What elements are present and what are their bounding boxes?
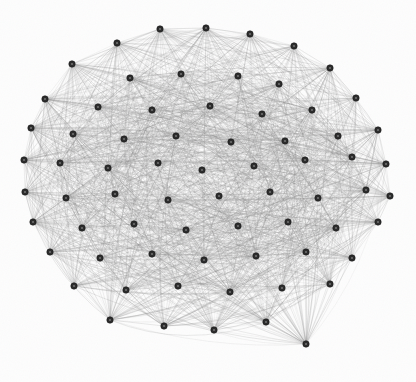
graph-node[interactable]: [383, 161, 389, 167]
graph-node-core: [97, 106, 99, 108]
graph-node[interactable]: [375, 219, 381, 225]
graph-node-core: [337, 135, 339, 137]
graph-node-core: [133, 223, 135, 225]
graph-node-core: [44, 98, 46, 100]
graph-node[interactable]: [267, 189, 273, 195]
graph-node[interactable]: [22, 189, 28, 195]
graph-node[interactable]: [315, 195, 321, 201]
graph-node-core: [177, 285, 179, 287]
graph-node[interactable]: [79, 225, 85, 231]
graph-node[interactable]: [253, 253, 259, 259]
graph-node-core: [305, 251, 307, 253]
graph-node-core: [304, 159, 306, 161]
graph-node[interactable]: [70, 131, 76, 137]
graph-node-core: [180, 73, 182, 75]
graph-node[interactable]: [216, 193, 222, 199]
graph-node[interactable]: [349, 154, 355, 160]
graph-node[interactable]: [282, 138, 288, 144]
graph-canvas: [0, 0, 416, 382]
graph-node[interactable]: [251, 163, 257, 169]
graph-node-core: [109, 319, 111, 321]
graph-node[interactable]: [114, 40, 120, 46]
graph-node[interactable]: [235, 223, 241, 229]
graph-node-core: [107, 167, 109, 169]
graph-node[interactable]: [131, 221, 137, 227]
graph-node[interactable]: [333, 225, 339, 231]
graph-node[interactable]: [276, 81, 282, 87]
graph-node-core: [261, 113, 263, 115]
graph-node-core: [175, 135, 177, 137]
graph-node[interactable]: [327, 65, 333, 71]
graph-node[interactable]: [178, 71, 184, 77]
graph-node-core: [377, 129, 379, 131]
graph-node-core: [237, 75, 239, 77]
graph-node[interactable]: [149, 251, 155, 257]
graph-node[interactable]: [247, 31, 253, 37]
graph-node[interactable]: [303, 249, 309, 255]
graph-node-core: [99, 257, 101, 259]
graph-node-core: [311, 109, 313, 111]
graph-node-core: [305, 343, 307, 345]
graph-node[interactable]: [335, 133, 341, 139]
graph-node[interactable]: [285, 219, 291, 225]
graph-node[interactable]: [161, 323, 167, 329]
graph-node-core: [287, 221, 289, 223]
graph-node[interactable]: [235, 73, 241, 79]
graph-node-core: [114, 193, 116, 195]
graph-node[interactable]: [387, 193, 393, 199]
graph-node[interactable]: [107, 317, 113, 323]
graph-node[interactable]: [165, 197, 171, 203]
graph-node[interactable]: [57, 160, 63, 166]
graph-node-core: [269, 191, 271, 193]
graph-node-core: [253, 165, 255, 167]
graph-node-core: [255, 255, 257, 257]
graph-node[interactable]: [259, 111, 265, 117]
graph-node-core: [163, 325, 165, 327]
graph-node[interactable]: [183, 227, 189, 233]
graph-node[interactable]: [71, 283, 77, 289]
graph-node[interactable]: [199, 167, 205, 173]
graph-node[interactable]: [203, 25, 209, 31]
graph-node[interactable]: [302, 157, 308, 163]
graph-node[interactable]: [279, 285, 285, 291]
graph-node[interactable]: [173, 133, 179, 139]
graph-node[interactable]: [155, 160, 161, 166]
graph-node[interactable]: [363, 187, 369, 193]
graph-node[interactable]: [97, 255, 103, 261]
graph-node[interactable]: [349, 255, 355, 261]
graph-node[interactable]: [30, 219, 36, 225]
graph-node[interactable]: [149, 107, 155, 113]
graph-node[interactable]: [228, 139, 234, 145]
graph-node[interactable]: [28, 125, 34, 131]
graph-node[interactable]: [69, 61, 75, 67]
graph-node[interactable]: [227, 289, 233, 295]
graph-node[interactable]: [309, 107, 315, 113]
graph-node[interactable]: [291, 43, 297, 49]
graph-node[interactable]: [375, 127, 381, 133]
graph-node-core: [284, 140, 286, 142]
graph-node[interactable]: [112, 191, 118, 197]
graph-node[interactable]: [121, 136, 127, 142]
graph-node[interactable]: [263, 319, 269, 325]
graph-node-core: [351, 156, 353, 158]
graph-node[interactable]: [21, 157, 27, 163]
graph-node[interactable]: [157, 26, 163, 32]
graph-node[interactable]: [175, 283, 181, 289]
graph-node[interactable]: [127, 75, 133, 81]
graph-node-core: [59, 162, 61, 164]
graph-node[interactable]: [47, 249, 53, 255]
graph-node-core: [167, 199, 169, 201]
graph-node[interactable]: [201, 257, 207, 263]
graph-node[interactable]: [353, 95, 359, 101]
graph-node[interactable]: [303, 341, 309, 347]
graph-node[interactable]: [327, 281, 333, 287]
graph-node[interactable]: [63, 195, 69, 201]
graph-node[interactable]: [123, 287, 129, 293]
graph-node-core: [159, 28, 161, 30]
graph-node[interactable]: [211, 327, 217, 333]
graph-node[interactable]: [42, 96, 48, 102]
graph-node[interactable]: [95, 104, 101, 110]
graph-node[interactable]: [207, 103, 213, 109]
graph-node-core: [293, 45, 295, 47]
graph-node[interactable]: [105, 165, 111, 171]
